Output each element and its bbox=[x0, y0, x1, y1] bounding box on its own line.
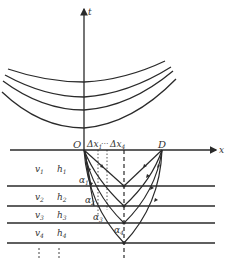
thickness-label-1: h1 bbox=[57, 164, 67, 175]
offset-label-last: Δx4 bbox=[109, 139, 126, 150]
travel-time-curve-1 bbox=[8, 61, 165, 82]
velocity-label-1: v1 bbox=[35, 164, 44, 175]
ray-path-2-up bbox=[124, 150, 162, 206]
offset-label-first: Δx1 bbox=[86, 139, 102, 150]
angle-label-4: α4 bbox=[114, 225, 124, 236]
thickness-label-2: h2 bbox=[57, 192, 67, 203]
origin-label: O bbox=[73, 139, 81, 150]
angle-label-2: α2 bbox=[85, 195, 95, 206]
x-axis-label: x bbox=[219, 145, 224, 155]
velocity-label-4: v4 bbox=[35, 228, 44, 239]
offset-ellipsis: ··· bbox=[101, 139, 109, 148]
receiver-label: D bbox=[157, 139, 166, 150]
ray-arrowheads bbox=[88, 164, 160, 202]
seismic-diagram: t x O D Δx1 ··· Δx4 bbox=[0, 0, 230, 263]
continuation-dots bbox=[38, 248, 60, 258]
angle-label-3: α3 bbox=[93, 212, 103, 223]
angle-label-1: α1 bbox=[79, 175, 89, 186]
travel-time-curves bbox=[2, 61, 176, 128]
thickness-label-3: h3 bbox=[57, 210, 67, 221]
t-axis-label: t bbox=[88, 7, 92, 17]
velocity-label-3: v3 bbox=[35, 210, 44, 221]
velocity-label-2: v2 bbox=[35, 192, 44, 203]
thickness-label-4: h4 bbox=[57, 228, 67, 239]
